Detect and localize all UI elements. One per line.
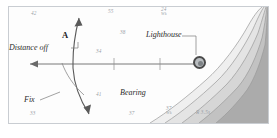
fix-leader [40, 92, 60, 100]
sounding-41: 41 [96, 92, 102, 97]
sounding-33: 33 [30, 111, 36, 116]
leader-lines [40, 36, 196, 100]
sounding-42: 42 [31, 11, 37, 16]
sounding-37b-qualifier: Wk [166, 111, 172, 115]
sounding-24-qualifier: Wk [161, 12, 167, 16]
sounding-37a: 37 [129, 111, 135, 116]
nautical-chart-diagram: Distance off Fix Bearing Lighthouse A 42… [0, 0, 277, 138]
lighthouse-symbol[interactable] [193, 56, 206, 69]
chart-graphics [0, 0, 277, 138]
track-arrowhead [75, 18, 83, 27]
lighthouse-leader [182, 36, 196, 55]
bearing-arrowhead [30, 61, 38, 68]
annotation-bearing: Bearing [120, 88, 146, 97]
sounding-37b: 37 Wk [166, 106, 172, 116]
annotation-distance-off: Distance off [9, 43, 48, 52]
sounding-24: 24 Wk [161, 7, 167, 17]
annotation-track-a: A [62, 30, 68, 40]
annotation-lighthouse: Lighthouse [146, 30, 182, 39]
light-characteristic-label: R 3.5s [196, 110, 210, 115]
sounding-34: 34 [96, 49, 102, 54]
annotation-fix: Fix [24, 95, 35, 104]
sounding-55: 55 [108, 9, 114, 14]
bearing-line [30, 58, 199, 70]
sounding-38: 38 [120, 30, 126, 35]
